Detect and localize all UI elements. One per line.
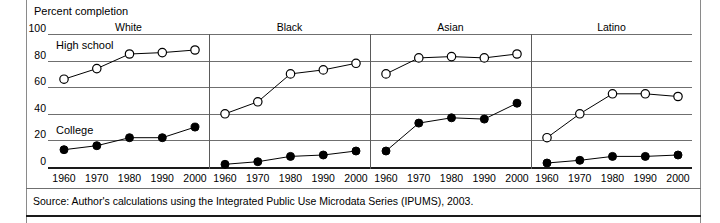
series-line	[386, 103, 517, 151]
data-point-marker	[287, 152, 295, 160]
data-point-marker	[93, 142, 101, 150]
data-point-marker	[641, 90, 649, 98]
data-point-marker	[286, 70, 294, 78]
data-point-marker	[608, 90, 616, 98]
data-point-marker	[543, 159, 551, 167]
data-point-marker	[674, 92, 682, 100]
data-point-marker	[415, 54, 423, 62]
data-point-marker	[576, 110, 584, 118]
data-point-marker	[609, 152, 617, 160]
data-point-marker	[93, 64, 101, 72]
data-point-marker	[447, 52, 455, 60]
data-point-marker	[448, 114, 456, 122]
data-point-marker	[382, 147, 390, 155]
data-point-marker	[480, 115, 488, 123]
data-point-marker	[480, 54, 488, 62]
data-point-marker	[60, 146, 68, 154]
data-point-marker	[513, 50, 521, 58]
data-point-marker	[352, 59, 360, 67]
data-point-marker	[60, 75, 68, 83]
data-point-marker	[319, 151, 327, 159]
data-point-marker	[576, 156, 584, 164]
data-point-marker	[125, 50, 133, 58]
source-divider-bottom	[26, 215, 701, 217]
data-point-marker	[641, 152, 649, 160]
data-point-marker	[254, 158, 262, 166]
data-point-marker	[191, 46, 199, 54]
chart-figure: Percent completion 020406080100 WhiteBla…	[0, 0, 720, 223]
source-note: Source: Author's calculations using the …	[33, 195, 473, 207]
data-point-marker	[221, 160, 229, 168]
data-point-marker	[319, 66, 327, 74]
data-point-marker	[674, 151, 682, 159]
data-point-marker	[158, 48, 166, 56]
data-point-marker	[352, 147, 360, 155]
data-point-marker	[221, 110, 229, 118]
series-line	[547, 94, 678, 138]
source-divider-top	[26, 188, 701, 189]
data-point-marker	[382, 70, 390, 78]
data-point-marker	[254, 98, 262, 106]
data-point-marker	[158, 134, 166, 142]
data-series-overlay	[0, 0, 720, 223]
data-point-marker	[126, 134, 134, 142]
data-point-marker	[191, 123, 199, 131]
data-point-marker	[543, 134, 551, 142]
data-point-marker	[513, 99, 521, 107]
data-point-marker	[415, 119, 423, 127]
